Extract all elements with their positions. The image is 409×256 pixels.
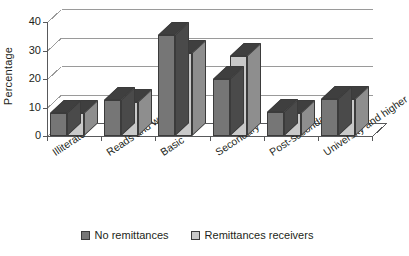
legend-item[interactable]: No remittances [81,229,169,241]
x-tick-mark [210,136,211,141]
bar-front-face [267,112,284,136]
bar-side-face [192,40,206,136]
x-tick-mark [372,136,373,141]
bar-column [158,35,175,136]
chart-legend: No remittancesRemittances receivers [0,229,394,241]
bar-side-face [247,43,261,136]
bar-column [104,100,121,136]
bar-column [213,79,230,136]
bar-side-face [175,22,189,136]
x-tick-mark [47,136,48,141]
legend-label: Remittances receivers [205,229,314,241]
bar-front-face [158,35,175,136]
x-tick-mark [264,136,265,141]
bar-front-face [104,100,121,136]
legend-item[interactable]: Remittances receivers [191,229,314,241]
bar-column [50,113,67,136]
legend-swatch-icon [191,231,200,240]
bar-column [267,112,284,136]
x-tick-mark [318,136,319,141]
legend-label: No remittances [95,229,169,241]
bar-front-face [213,79,230,136]
legend-swatch-icon [81,231,90,240]
x-tick-mark [155,136,156,141]
bar-front-face [50,113,67,136]
bar-front-face [321,99,338,136]
x-tick-mark [101,136,102,141]
bar-column [321,99,338,136]
